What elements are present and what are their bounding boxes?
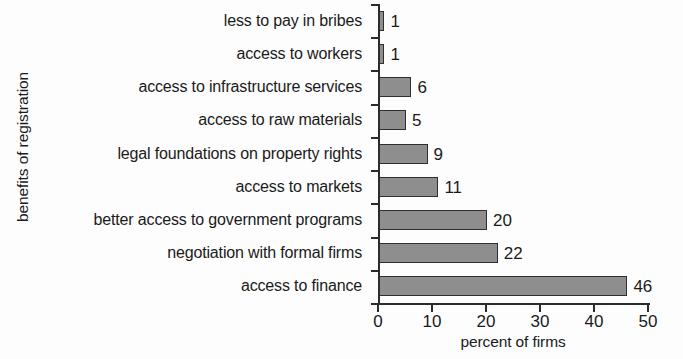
- category-label: negotiation with formal firms: [167, 245, 362, 261]
- bar: [379, 110, 406, 130]
- bar: [379, 77, 411, 97]
- bar: [379, 44, 384, 64]
- x-axis-title: percent of firms: [378, 333, 648, 351]
- category-label: access to infrastructure services: [138, 79, 362, 95]
- bar: [379, 276, 627, 296]
- bar-value-label: 1: [390, 13, 399, 30]
- x-axis-tick: [539, 305, 541, 312]
- bar-value-label: 11: [444, 179, 462, 196]
- category-label: less to pay in bribes: [224, 13, 362, 29]
- plot-area: 010203040501165911202246: [378, 4, 648, 303]
- y-axis-tick: [371, 137, 378, 139]
- category-label: access to raw materials: [198, 112, 362, 128]
- x-axis-tick: [647, 305, 649, 312]
- bar: [379, 210, 487, 230]
- category-label-column: less to pay in bribesaccess to workersac…: [20, 4, 370, 303]
- y-axis-tick: [371, 270, 378, 272]
- bar-value-label: 9: [434, 146, 443, 163]
- x-axis-tick-label: 20: [466, 313, 506, 331]
- x-axis-tick-label: 30: [520, 313, 560, 331]
- y-axis-tick: [371, 104, 378, 106]
- x-axis-tick-label: 10: [412, 313, 452, 331]
- y-axis-tick: [371, 37, 378, 39]
- x-axis-tick-label: 0: [358, 313, 398, 331]
- bar: [379, 11, 384, 31]
- x-axis-tick-label: 40: [574, 313, 614, 331]
- bar: [379, 177, 438, 197]
- x-axis-line: [378, 303, 650, 305]
- bar: [379, 243, 498, 263]
- category-label: legal foundations on property rights: [117, 146, 362, 162]
- x-axis-tick: [593, 305, 595, 312]
- category-label: access to finance: [241, 278, 362, 294]
- x-axis-tick: [431, 305, 433, 312]
- category-label: better access to government programs: [93, 212, 362, 228]
- bar-value-label: 20: [493, 212, 512, 229]
- bar-value-label: 5: [412, 112, 421, 129]
- bar: [379, 144, 428, 164]
- y-axis-tick: [371, 237, 378, 239]
- y-axis-tick: [371, 303, 378, 305]
- x-axis-tick: [377, 305, 379, 312]
- bar-value-label: 46: [633, 278, 652, 295]
- x-axis-tick: [485, 305, 487, 312]
- y-axis-tick: [371, 203, 378, 205]
- y-axis-tick: [371, 70, 378, 72]
- y-axis-tick: [371, 4, 378, 6]
- y-axis-tick: [371, 170, 378, 172]
- x-axis-tick-label: 50: [628, 313, 668, 331]
- bar-value-label: 1: [390, 46, 399, 63]
- category-label: access to markets: [236, 179, 362, 195]
- category-label: access to workers: [237, 46, 363, 62]
- bar-chart: benefits of registration less to pay in …: [0, 0, 683, 359]
- bar-value-label: 6: [417, 79, 426, 96]
- bar-value-label: 22: [504, 245, 523, 262]
